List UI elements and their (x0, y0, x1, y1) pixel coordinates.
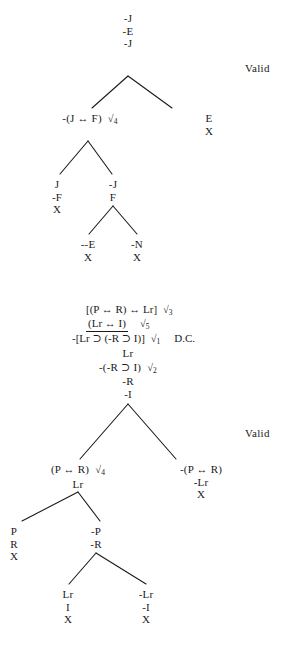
p2-left-right-line-2: -R (90, 538, 101, 551)
p2-trunk-line-1: Lr (123, 347, 134, 360)
branch-line-p1-root-right (128, 76, 172, 108)
p1-left-left-node: J -F X (52, 178, 62, 216)
branch-line-p2-root-left (80, 404, 128, 459)
p2-premise-1-check-sub: 3 (169, 308, 173, 317)
p1-right-branch-node: E X (205, 112, 213, 137)
p2-premise-2-check: √5 (140, 318, 150, 329)
check-mark-icon: √ (151, 333, 157, 344)
p2-left-branch-subline: Lr (51, 478, 105, 491)
p1-left-branch-formula: -(J ↔ F)√4 (62, 112, 117, 127)
p2-left-right-line-1: -P (90, 525, 101, 538)
p1-left-right-node: -J F (109, 178, 117, 203)
branch-line-p1-root-left (92, 76, 128, 108)
p2-premise-3: -[Lr ⊃ (-R ⊃ I)]√1D.C. (72, 332, 195, 347)
p2-premise-2: (Lr ↔ I)√5 (86, 317, 149, 332)
verdict-label-proof-one: Valid (245, 62, 270, 74)
p2-premise-3-check-sub: 1 (157, 337, 161, 346)
p2-leaf-a-node: Lr I X (63, 588, 74, 626)
branch-line-p2-r-left (69, 553, 96, 584)
p1-left-left-close-x: X (52, 203, 62, 216)
p2-left-right-node: -P -R (90, 525, 101, 550)
p2-premise-2-check-sub: 5 (146, 322, 150, 331)
p2-left-left-node: P R X (10, 525, 18, 563)
p2-left-left-line-1: P (10, 525, 18, 538)
branch-line-p2-r-right (96, 553, 146, 584)
p2-premise-3-check: √1 (151, 333, 161, 344)
p2-leaf-a-line-1: Lr (63, 588, 74, 601)
check-mark-icon: √ (140, 318, 146, 329)
branch-line-p2-left-left (22, 492, 78, 521)
branch-line-p1-left-left (60, 141, 88, 174)
p2-decomposed-text: -(-R ⊃ I) (99, 361, 141, 373)
branch-line-p2-left-right (78, 492, 100, 521)
verdict-label-proof-two: Valid (245, 427, 270, 439)
p2-premise-1-text: [(P ↔ R) ↔ Lr] (86, 303, 157, 315)
p2-premise-2-text: (Lr ↔ I) (86, 317, 128, 332)
p2-trunk-tail-node: -R -I (122, 375, 133, 400)
p1-leaf-a-close-x: X (81, 251, 96, 264)
p2-right-branch-close-x: X (180, 488, 222, 501)
proof-page: -J -E -J -(J ↔ F)√4 E X J -F X -J F --E … (0, 0, 297, 647)
p2-premise-3-text: -[Lr ⊃ (-R ⊃ I)] (72, 332, 145, 344)
p2-leaf-a-line-2: I (63, 601, 74, 614)
p1-left-branch-node: -(J ↔ F)√4 (62, 112, 117, 127)
p1-left-left-line-1: J (52, 178, 62, 191)
p2-right-branch-line-2: -Lr (180, 476, 222, 489)
p2-trunk-node: Lr (123, 347, 134, 360)
p2-decomposed-check: √2 (147, 362, 157, 373)
branch-line-p1-f-left (89, 206, 113, 234)
p2-right-branch-line-1: -(P ↔ R) (180, 463, 222, 476)
p1-right-branch-close-x: X (205, 125, 213, 138)
p2-leaf-a-close-x: X (63, 613, 74, 626)
p2-left-branch-text: (P ↔ R) (51, 463, 89, 475)
p2-premise-1-check: √3 (163, 304, 173, 315)
p1-left-left-line-2: -F (52, 191, 62, 204)
p2-left-branch-formula: (P ↔ R)√4 (51, 463, 105, 478)
p2-leaf-b-close-x: X (139, 613, 154, 626)
p2-right-branch-node: -(P ↔ R) -Lr X (180, 463, 222, 501)
p2-left-branch-check: √4 (95, 464, 105, 475)
p1-leaf-b-close-x: X (131, 251, 143, 264)
p1-leaf-a-line-1: --E (81, 238, 96, 251)
p2-leaf-b-line-1: -Lr (139, 588, 154, 601)
p2-decomposed-check-sub: 2 (153, 366, 157, 375)
p1-left-branch-text: -(J ↔ F) (62, 112, 102, 124)
p2-left-left-close-x: X (10, 550, 18, 563)
check-mark-icon: √ (163, 304, 169, 315)
p2-decomposed-node: -(-R ⊃ I)√2 (99, 361, 157, 376)
branch-line-p1-f-right (113, 206, 137, 234)
p2-leaf-b-node: -Lr -I X (139, 588, 154, 626)
p1-leaf-b-line-1: -N (131, 238, 143, 251)
p1-trunk-line-2: -E (123, 25, 134, 38)
p1-left-right-line-1: -J (109, 178, 117, 191)
p2-premise-3-note: D.C. (160, 332, 195, 346)
p1-leaf-b-node: -N X (131, 238, 143, 263)
p1-right-branch-line-1: E (205, 112, 213, 125)
p2-left-left-line-2: R (10, 538, 18, 551)
p2-leaf-b-line-2: -I (139, 601, 154, 614)
p2-trunk-tail-line-1: -R (122, 375, 133, 388)
p2-left-branch-check-sub: 4 (101, 468, 105, 477)
p1-trunk-line-3: -J (123, 37, 134, 50)
p1-left-branch-check-sub: 4 (114, 117, 118, 126)
branch-line-p2-root-right (128, 404, 176, 459)
p1-left-right-line-2: F (109, 191, 117, 204)
p2-premise-1: [(P ↔ R) ↔ Lr]√3 (86, 303, 173, 318)
p1-left-branch-check: √4 (108, 113, 118, 124)
p2-left-branch-node: (P ↔ R)√4 Lr (51, 463, 105, 490)
p2-decomposed-formula: -(-R ⊃ I)√2 (99, 361, 157, 376)
p1-leaf-a-node: --E X (81, 238, 96, 263)
p1-trunk-line-1: -J (123, 12, 134, 25)
p2-trunk-tail-line-2: -I (122, 388, 133, 401)
branch-line-p1-left-right (88, 141, 112, 174)
p1-trunk-node: -J -E -J (123, 12, 134, 50)
